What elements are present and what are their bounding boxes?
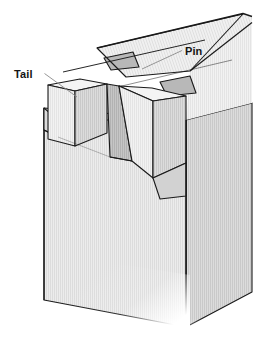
tail-label: Tail: [14, 68, 33, 80]
dovetail-joint-drawing: Tail Pin: [0, 0, 253, 343]
joint-solid: [0, 14, 253, 343]
tail-1-front-face: [48, 85, 75, 146]
dovetail-joint-figure: Tail Pin: [0, 0, 253, 343]
pin-label: Pin: [185, 45, 203, 57]
